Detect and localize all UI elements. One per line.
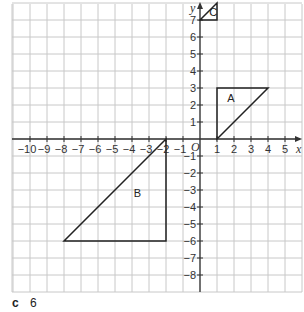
y-tick-label: −4: [183, 201, 196, 213]
y-tick-label: 7: [190, 14, 196, 26]
y-axis-label: y: [189, 1, 196, 15]
y-tick-label: −7: [183, 252, 196, 264]
y-tick-label: 3: [190, 82, 196, 94]
part-answer: 6: [30, 296, 37, 310]
x-tick-label: 1: [214, 143, 220, 155]
y-tick-label: −6: [183, 235, 196, 247]
triangle-a: [217, 88, 268, 139]
x-tick-label: −8: [55, 143, 68, 155]
y-tick-label: −1: [183, 150, 196, 162]
y-tick-label: 6: [190, 31, 196, 43]
y-tick-label: −3: [183, 184, 196, 196]
y-tick-label: −8: [183, 269, 196, 281]
x-tick-label: 3: [248, 143, 254, 155]
x-tick-label: 4: [265, 143, 271, 155]
triangle-label-a: A: [227, 92, 235, 104]
y-tick-label: 4: [190, 65, 196, 77]
coordinate-grid: xyO−10−9−8−7−6−5−4−3−2−1123457654321−1−2…: [0, 0, 304, 296]
x-tick-label: −6: [89, 143, 102, 155]
x-tick-label: 5: [282, 143, 288, 155]
x-tick-label: −7: [72, 143, 85, 155]
x-tick-label: 2: [231, 143, 237, 155]
x-tick-label: −2: [157, 143, 170, 155]
part-letter: c: [12, 296, 19, 310]
y-tick-label: 1: [190, 116, 196, 128]
y-tick-label: 2: [190, 99, 196, 111]
triangle-label-b: B: [134, 187, 141, 199]
triangle-label-c: C: [209, 6, 217, 18]
x-tick-label: −3: [140, 143, 153, 155]
x-tick-label: −4: [123, 143, 136, 155]
x-tick-label: −10: [18, 143, 37, 155]
x-tick-label: −5: [106, 143, 119, 155]
y-tick-label: −5: [183, 218, 196, 230]
y-tick-label: 5: [190, 48, 196, 60]
y-tick-label: −2: [183, 167, 196, 179]
question-part: c 6: [12, 296, 37, 310]
x-tick-label: −9: [38, 143, 51, 155]
x-axis-label: x: [295, 142, 302, 156]
